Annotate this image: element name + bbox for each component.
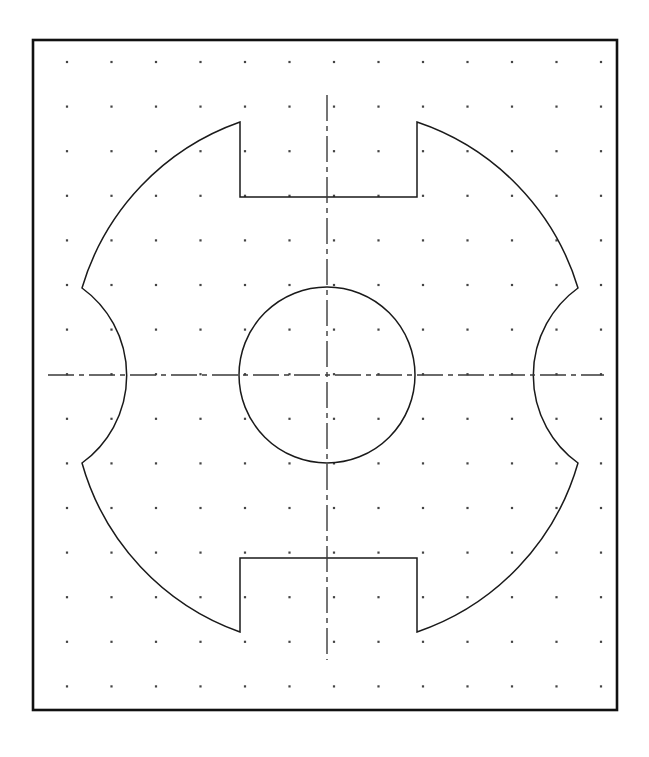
grid-dot — [110, 641, 112, 643]
grid-dot — [199, 61, 201, 63]
grid-dot — [377, 61, 379, 63]
grid-dot — [422, 418, 424, 420]
grid-dot — [555, 418, 557, 420]
grid-dot — [511, 329, 513, 331]
grid-dot — [333, 150, 335, 152]
grid-dot — [422, 150, 424, 152]
grid-dot — [422, 685, 424, 687]
grid-dot — [333, 106, 335, 108]
grid-dot — [511, 106, 513, 108]
technical-drawing-canvas — [0, 0, 649, 757]
grid-dot — [377, 641, 379, 643]
grid-dot — [422, 507, 424, 509]
grid-dot — [66, 239, 68, 241]
grid-dot — [333, 507, 335, 509]
grid-dot — [466, 685, 468, 687]
drawing-sheet — [0, 0, 649, 757]
grid-dot — [110, 195, 112, 197]
grid-dot — [110, 150, 112, 152]
grid-dot — [66, 329, 68, 331]
grid-dot — [377, 685, 379, 687]
grid-dot — [377, 418, 379, 420]
grid-dot — [600, 552, 602, 554]
grid-dot — [110, 284, 112, 286]
grid-dot — [466, 284, 468, 286]
grid-dot — [244, 462, 246, 464]
grid-dot — [110, 552, 112, 554]
grid-dot — [511, 418, 513, 420]
grid-dot — [600, 150, 602, 152]
grid-dot — [333, 239, 335, 241]
grid-dot — [244, 418, 246, 420]
grid-dot — [600, 284, 602, 286]
grid-dot — [244, 552, 246, 554]
grid-dot — [466, 596, 468, 598]
grid-dot — [155, 418, 157, 420]
grid-dot — [155, 462, 157, 464]
grid-dot — [110, 239, 112, 241]
grid-dot — [333, 552, 335, 554]
grid-dot — [66, 596, 68, 598]
grid-dot — [511, 641, 513, 643]
grid-dot — [244, 329, 246, 331]
grid-dot — [511, 284, 513, 286]
grid-dot — [555, 329, 557, 331]
grid-dot — [600, 418, 602, 420]
grid-dot — [377, 462, 379, 464]
grid-dot — [466, 106, 468, 108]
grid-dot — [377, 284, 379, 286]
grid-dot — [511, 462, 513, 464]
grid-dot — [288, 284, 290, 286]
grid-dot — [511, 552, 513, 554]
grid-dot — [199, 329, 201, 331]
grid-dot — [288, 596, 290, 598]
grid-dot — [422, 641, 424, 643]
grid-dot — [199, 373, 201, 375]
grid-dot — [155, 284, 157, 286]
grid-dot — [66, 641, 68, 643]
grid-dot — [466, 507, 468, 509]
grid-dot — [333, 329, 335, 331]
grid-dot — [466, 462, 468, 464]
grid-dot — [600, 329, 602, 331]
grid-dot — [199, 462, 201, 464]
grid-dot — [555, 507, 557, 509]
grid-dot — [600, 641, 602, 643]
grid-dot — [422, 239, 424, 241]
grid-dot — [110, 61, 112, 63]
grid-dot — [155, 61, 157, 63]
grid-dot — [422, 462, 424, 464]
grid-dot — [199, 284, 201, 286]
grid-dot — [466, 552, 468, 554]
grid-dot — [66, 685, 68, 687]
grid-dot — [288, 239, 290, 241]
grid-dot — [66, 195, 68, 197]
grid-dot — [555, 552, 557, 554]
grid-dot — [110, 329, 112, 331]
grid-dot — [110, 418, 112, 420]
grid-dot — [66, 284, 68, 286]
grid-dot — [466, 61, 468, 63]
grid-dot — [555, 284, 557, 286]
grid-dot — [155, 150, 157, 152]
grid-dot — [511, 507, 513, 509]
grid-dot — [199, 641, 201, 643]
grid-dot — [288, 552, 290, 554]
grid-dot — [110, 685, 112, 687]
grid-dot — [155, 106, 157, 108]
grid-dot — [333, 373, 335, 375]
grid-dot — [155, 195, 157, 197]
grid-dot — [422, 596, 424, 598]
grid-dot — [511, 61, 513, 63]
grid-dot — [422, 106, 424, 108]
grid-dot — [199, 552, 201, 554]
grid-dot — [288, 418, 290, 420]
grid-dot — [155, 685, 157, 687]
grid-dot — [600, 239, 602, 241]
grid-dot — [155, 507, 157, 509]
grid-dot — [377, 552, 379, 554]
grid-dot — [199, 596, 201, 598]
grid-dot — [155, 552, 157, 554]
grid-dot — [199, 195, 201, 197]
grid-dot — [511, 195, 513, 197]
